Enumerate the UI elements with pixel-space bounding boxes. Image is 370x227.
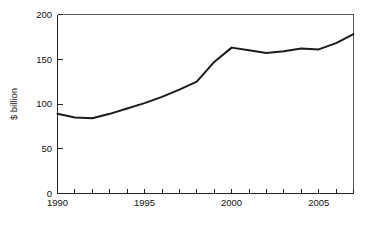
x-tick-label-2000: 2000 [221,197,242,208]
line-chart: 200 150 100 50 0 [0,0,370,227]
y-tick-label-100: 100 [36,98,52,109]
x-tick-label-2005: 2005 [308,197,329,208]
x-tick-label-1990: 1990 [47,197,68,208]
y-axis-title: $ billion [8,88,19,120]
x-tick-label-1995: 1995 [134,197,155,208]
chart-canvas: 200 150 100 50 0 [0,0,370,227]
y-tick-label-50: 50 [41,143,52,154]
y-tick-label-150: 150 [36,54,52,65]
y-tick-label-200: 200 [36,9,52,20]
